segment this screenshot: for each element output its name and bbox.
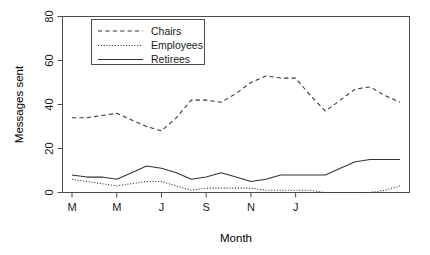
legend-label-chairs: Chairs bbox=[151, 25, 181, 37]
series-group bbox=[72, 76, 400, 193]
series-line-employees bbox=[72, 179, 400, 192]
y-tick-label-20: 20 bbox=[43, 142, 55, 154]
series-line-chairs bbox=[72, 76, 400, 131]
x-tick-label-0: M bbox=[67, 201, 76, 213]
legend-label-retirees: Retirees bbox=[151, 53, 190, 65]
x-tick-label-5: J bbox=[293, 201, 299, 213]
chart-legend: Chairs Employees Retirees bbox=[92, 20, 205, 66]
x-tick-label-2: J bbox=[159, 201, 165, 213]
y-axis-title: Messages sent bbox=[13, 65, 25, 143]
series-line-retirees bbox=[72, 160, 400, 182]
x-axis-tick-labels: MMJSNJ bbox=[67, 201, 298, 213]
y-axis-ticks bbox=[58, 17, 63, 193]
x-tick-label-4: N bbox=[247, 201, 255, 213]
y-tick-label-60: 60 bbox=[43, 54, 55, 66]
x-axis-ticks bbox=[72, 193, 296, 198]
y-tick-label-80: 80 bbox=[43, 10, 55, 22]
line-chart-svg: 0 20 40 60 80 Messages sent MMJSNJ Month… bbox=[0, 0, 430, 255]
chart-figure: 0 20 40 60 80 Messages sent MMJSNJ Month… bbox=[0, 0, 430, 255]
x-tick-label-3: S bbox=[203, 201, 210, 213]
y-tick-label-0: 0 bbox=[43, 189, 55, 195]
legend-label-employees: Employees bbox=[151, 39, 203, 51]
x-axis-title: Month bbox=[220, 232, 252, 244]
y-axis-tick-labels: 0 20 40 60 80 bbox=[43, 10, 55, 195]
y-tick-label-40: 40 bbox=[43, 98, 55, 110]
x-tick-label-1: M bbox=[112, 201, 121, 213]
